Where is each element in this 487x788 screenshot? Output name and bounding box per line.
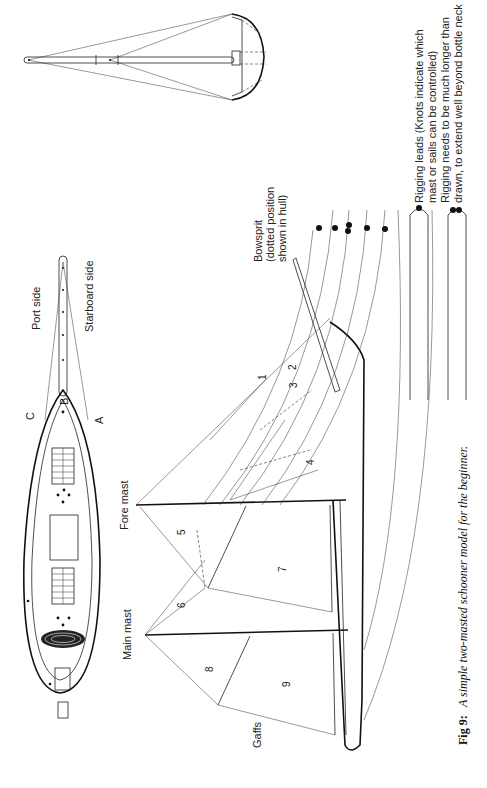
starboard-side-label: Starboard side [83,260,95,332]
sail-4-label: 4 [305,459,316,465]
sail-7-label: 7 [277,566,288,572]
sail-1-label: 1 [257,374,268,380]
legend-length-line1: Rigging needs to be much longer than [439,17,451,203]
point-b-label: B [58,398,70,405]
sail-5-label: 5 [176,529,187,535]
bowsprit-label-1: Bowsprit [252,220,264,262]
legend-leads-line2: mast or sails can be controlled) [426,51,438,203]
legend-leads-line1: Rigging leads (Knots indicate which [413,29,425,203]
gaffs-label: Gaffs [251,721,263,748]
side-view [136,210,433,750]
caption-label: Fig 9: [456,715,470,745]
bowsprit-label-2: (dotted position [264,187,276,262]
sail-6-label: 6 [176,602,187,608]
sail-9-label: 9 [281,681,292,687]
sail-3-label: 3 [288,382,299,388]
port-side-label: Port side [30,287,42,330]
point-a-label: A [93,416,105,424]
legend-length-line2: drawn, to extend well beyond bottle neck [452,4,464,203]
schooner-diagram: Port side Starboard side C B A [0,0,487,788]
end-view [24,14,266,100]
bowsprit-label-3: shown in hull) [276,195,288,262]
fore-mast-label: Fore mast [118,480,130,530]
sail-8-label: 8 [204,666,215,672]
main-mast-label: Main mast [121,609,133,660]
caption-text: A simple two-masted schooner model for t… [456,446,470,708]
sail-2-label: 2 [287,364,298,370]
point-c-label: C [24,412,36,420]
legend-graphic [410,205,466,400]
figure-caption: Fig 9: A simple two-masted schooner mode… [456,446,470,745]
